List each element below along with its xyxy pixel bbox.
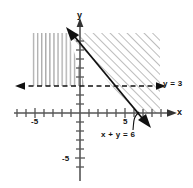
dashed-line-left-arrow-icon (15, 82, 25, 90)
diagonal-line-label: x + y = 6 (101, 131, 135, 139)
x-tick-label-minus-5: -5 (31, 118, 38, 126)
graph-figure: x y -5 5 -5 y = 3 x + y = 6 (0, 0, 193, 188)
x-axis-arrow-icon (167, 109, 177, 117)
x-tick-label-5: 5 (123, 118, 127, 126)
y-tick-label-minus-5: -5 (62, 155, 69, 163)
coordinate-plane (0, 0, 193, 188)
y-axis-label: y (77, 11, 82, 20)
x-axis-label: x (177, 108, 182, 117)
horizontal-line-label: y = 3 (163, 80, 183, 88)
